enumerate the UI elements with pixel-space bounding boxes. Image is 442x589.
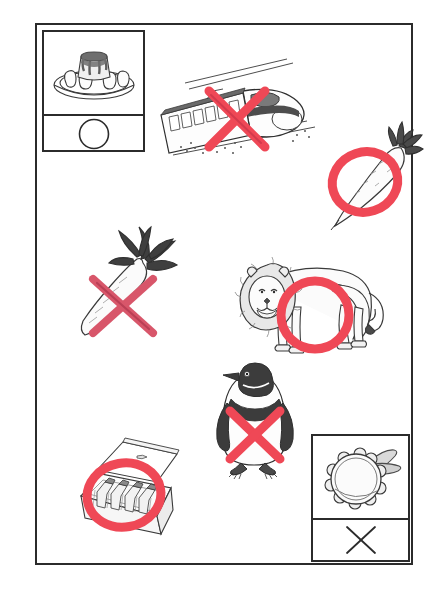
item-bottle-case-label: Case of bottles [65, 545, 66, 546]
item-carrot-label: Carrot [57, 345, 58, 346]
worksheet-page: ○ [0, 0, 442, 589]
legend-picture-tambourine [313, 436, 408, 520]
legend-box-cross: × [311, 434, 410, 562]
item-bottle-case: Case of bottles [65, 430, 195, 545]
item-penguin: Penguin [197, 355, 312, 480]
item-train: Bullet train [147, 55, 322, 165]
legend-box-circle: ○ [42, 30, 145, 152]
item-train-label: Bullet train [147, 165, 148, 166]
legend-mark-circle: ○ [44, 116, 143, 152]
legend-picture-pudding [44, 32, 143, 116]
legend-mark-cross: × [313, 520, 408, 560]
item-daikon-radish: Daikon radish [309, 120, 424, 235]
item-penguin-label: Penguin [197, 480, 198, 481]
item-lion: Lion [207, 227, 392, 362]
item-carrot: Carrot [57, 215, 182, 345]
worksheet-frame: ○ [35, 23, 413, 565]
